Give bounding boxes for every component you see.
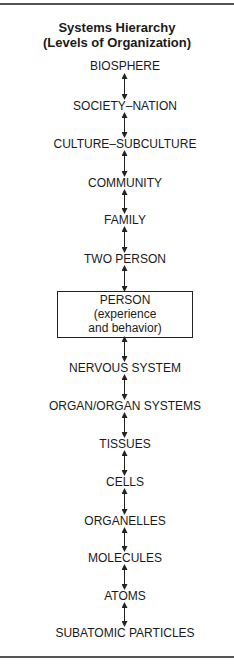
connector-arrows [0, 0, 234, 667]
bottom-rule [0, 656, 234, 658]
